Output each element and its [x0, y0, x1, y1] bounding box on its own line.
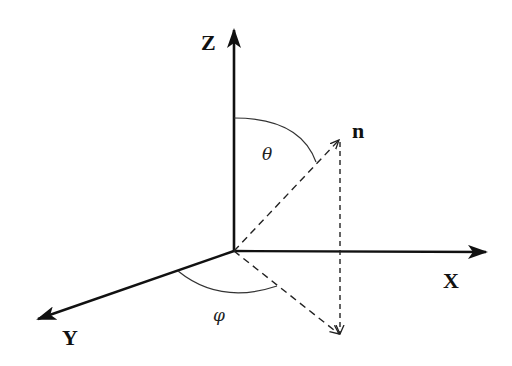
z-axis-label: Z — [201, 30, 216, 55]
theta-arc — [234, 118, 316, 162]
coordinate-diagram: Z X Y n θ φ — [0, 0, 512, 366]
x-axis — [234, 251, 486, 252]
y-axis-label: Y — [62, 325, 78, 350]
vector-n-label: n — [352, 118, 364, 143]
vector-n — [234, 140, 339, 251]
y-axis — [38, 251, 234, 319]
phi-label: φ — [213, 305, 225, 325]
x-axis-label: X — [443, 268, 459, 293]
phi-arc — [178, 271, 277, 293]
theta-label: θ — [262, 144, 272, 164]
